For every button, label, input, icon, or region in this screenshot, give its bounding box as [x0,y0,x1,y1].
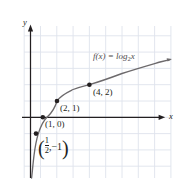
point-label-1-0: (1, 0) [45,120,65,129]
point-label-half-neg1: (12,−1) [38,136,69,158]
point-label-2-1: (2, 1) [60,104,80,113]
function-label: f(x) = log2x [93,52,135,62]
function-label-argument: x [131,51,135,61]
point-2-1 [55,99,60,104]
x-axis-label: x [169,112,173,121]
function-label-prefix: f(x) = log [93,51,128,61]
log-function-graph-figure: y x f(x) = log2x (4, 2) (2, 1) (1, 0) (1… [0,0,189,189]
point-label-4-2: (4, 2) [93,88,113,97]
y-axis-label: y [23,18,27,27]
point-4-2 [87,82,92,87]
paren-open: ( [38,137,45,159]
paren-close: ) [62,137,69,159]
label-value-neg-one: −1 [51,141,62,152]
